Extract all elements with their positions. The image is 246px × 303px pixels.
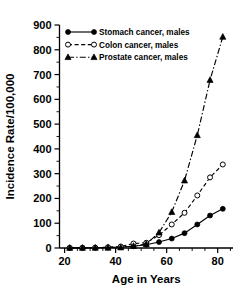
- x-axis-tick-label: 20: [58, 255, 70, 267]
- y-axis-tick-label: 0: [45, 242, 51, 254]
- y-axis-tick-label: 900: [33, 19, 51, 31]
- data-point: [220, 162, 225, 167]
- legend-marker-sample: [66, 30, 71, 35]
- legend-label: Prostate cancer, males: [99, 53, 188, 62]
- data-point: [195, 193, 200, 198]
- series-line: [70, 165, 223, 248]
- axis-titles: Age in YearsIncidence Rate/100,000: [4, 74, 181, 285]
- series-3: [67, 34, 226, 251]
- x-axis-tick-label: 40: [110, 255, 122, 267]
- y-axis-tick-label: 800: [33, 44, 51, 56]
- series-line: [70, 37, 223, 248]
- data-point: [181, 177, 187, 183]
- data-point: [169, 222, 174, 227]
- legend-label: Colon cancer, males: [99, 41, 179, 50]
- cancer-incidence-chart: 010020030040050060070080090020406080 Sto…: [0, 0, 246, 303]
- data-point: [208, 175, 213, 180]
- data-point: [208, 213, 213, 218]
- data-point: [220, 34, 226, 40]
- data-point: [182, 210, 187, 215]
- legend-item-1: Stomach cancer, males: [66, 28, 191, 37]
- y-axis-tick-label: 500: [33, 118, 51, 130]
- legend-label: Stomach cancer, males: [99, 28, 190, 37]
- y-axis-tick-label: 300: [33, 168, 51, 180]
- y-axis-tick-label: 700: [33, 69, 51, 81]
- x-axis-tick-label: 60: [161, 255, 173, 267]
- data-point: [207, 77, 213, 83]
- data-series: [67, 34, 226, 251]
- legend-marker-sample: [66, 42, 71, 47]
- y-axis-tick-label: 100: [33, 217, 51, 229]
- data-point: [169, 209, 175, 215]
- chart-legend: Stomach cancer, malesColon cancer, males…: [65, 28, 190, 62]
- data-point: [169, 236, 174, 241]
- data-point: [182, 231, 187, 236]
- y-axis-title: Incidence Rate/100,000: [4, 74, 16, 200]
- legend-item-3: Prostate cancer, males: [65, 53, 188, 62]
- y-axis-tick-label: 600: [33, 93, 51, 105]
- data-point: [194, 132, 200, 138]
- legend-marker-sample: [92, 30, 97, 35]
- legend-marker-sample: [92, 42, 97, 47]
- series-2: [67, 162, 225, 250]
- data-point: [220, 206, 225, 211]
- x-axis-title: Age in Years: [112, 273, 181, 285]
- y-axis-tick-label: 400: [33, 143, 51, 155]
- x-axis-tick-label: 80: [212, 255, 224, 267]
- y-axis-tick-label: 200: [33, 192, 51, 204]
- data-point: [195, 222, 200, 227]
- data-point: [157, 240, 162, 245]
- chart-canvas: 010020030040050060070080090020406080 Sto…: [0, 0, 246, 303]
- legend-item-2: Colon cancer, males: [66, 41, 179, 50]
